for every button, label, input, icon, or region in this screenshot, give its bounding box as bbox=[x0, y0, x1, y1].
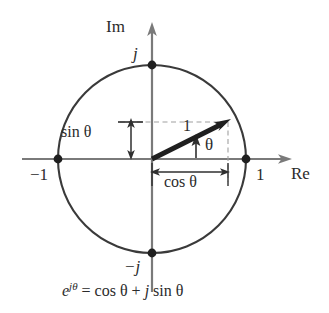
sine-component-label: sin θ bbox=[61, 124, 91, 140]
caption-exponent-theta: θ bbox=[72, 280, 77, 292]
point-positive-one bbox=[242, 155, 251, 164]
point-negative-j bbox=[148, 249, 157, 258]
figure-caption: ejθ = cos θ + j sin θ bbox=[62, 281, 183, 299]
imaginary-axis-label: Im bbox=[106, 18, 125, 35]
caption-j-italic: j bbox=[145, 282, 149, 299]
point-label-negative-j: −j bbox=[124, 258, 140, 275]
point-label-positive-j: j bbox=[133, 45, 138, 62]
caption-sine-tail: sin θ bbox=[153, 282, 183, 299]
point-label-negative-one: −1 bbox=[30, 166, 48, 183]
point-label-positive-one: 1 bbox=[256, 166, 265, 183]
cosine-component-label: cos θ bbox=[164, 174, 197, 190]
caption-equals-cos: = cos θ + bbox=[82, 282, 141, 299]
real-axis-label: Re bbox=[291, 165, 310, 182]
phasor-vector bbox=[152, 119, 231, 159]
angle-theta-label: θ bbox=[205, 136, 213, 153]
point-positive-j bbox=[148, 61, 157, 70]
point-negative-one bbox=[54, 155, 63, 164]
unit-circle-diagram bbox=[0, 0, 329, 313]
complex-plane-figure: Im Re j −j −1 1 sin θ cos θ θ 1 ejθ = co… bbox=[0, 0, 329, 313]
sine-measure bbox=[118, 118, 143, 160]
radius-magnitude-label: 1 bbox=[183, 118, 191, 134]
